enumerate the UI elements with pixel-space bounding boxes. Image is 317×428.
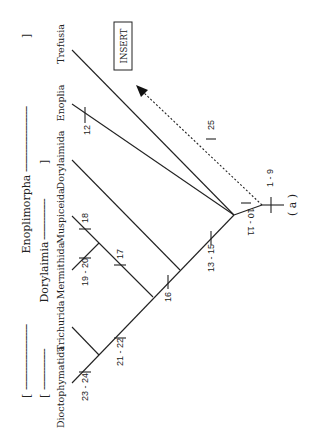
svg-text:------------------------: ------------------------ <box>20 106 33 172</box>
svg-text:[: [ <box>20 394 33 398</box>
bracket-dorylaimia: [ --------------- Dorylaimia -----------… <box>38 160 51 398</box>
taxon-dioctophymatida: Dioctophymatida <box>55 346 66 428</box>
tick-label-17: 17 <box>115 249 125 259</box>
arrowhead-icon <box>136 85 148 97</box>
tick-label-23-24: 23 - 24 <box>80 373 90 401</box>
tick-label-18: 18 <box>80 213 90 223</box>
taxon-trefusia: Trefusia <box>55 24 66 64</box>
cladogram-figure: INSERT Trefusia Enoplia Dorylaimida Musp… <box>0 0 317 428</box>
tick-label-10-11: 10 - 11 <box>246 208 256 235</box>
panel-label: ( a ) <box>286 194 299 216</box>
svg-text:---------------: --------------- <box>38 198 51 240</box>
insert-label: INSERT <box>119 28 129 63</box>
branch-trefusia <box>72 50 234 215</box>
tick-label-1-9: 1 - 9 <box>265 169 275 187</box>
svg-text:---------------: --------------- <box>38 348 51 390</box>
taxon-trichurida: Trichurida <box>55 300 66 351</box>
svg-text:Dorylaimia: Dorylaimia <box>38 241 51 302</box>
taxon-mermithida: Mermithida <box>55 242 66 299</box>
svg-text:Enoplimorpha: Enoplimorpha <box>20 174 33 253</box>
svg-text:]: ] <box>38 160 51 164</box>
taxon-dorylaimida: Dorylaimida <box>55 130 66 189</box>
tick-label-16: 16 <box>163 292 173 302</box>
dotted-insert-branch <box>142 91 262 205</box>
svg-text:[: [ <box>38 394 51 398</box>
bracket-enoplimorpha: [ ------------------------ Enoplimorpha … <box>20 34 33 398</box>
tick-label-21-22: 21 - 22 <box>115 338 125 366</box>
tick-label-19-20: 19 - 20 <box>80 258 90 286</box>
tick-label-13-15: 13 - 15 <box>206 244 216 272</box>
tick-label-25: 25 <box>206 120 216 130</box>
taxon-muspiceida: Muspiceida <box>55 188 66 244</box>
tick-label-12: 12 <box>82 125 92 135</box>
taxon-enoplia: Enoplia <box>55 84 66 121</box>
svg-text:]: ] <box>20 34 33 38</box>
branch-trichurida <box>72 327 99 355</box>
svg-text:------------------------: ------------------------ <box>20 324 33 390</box>
